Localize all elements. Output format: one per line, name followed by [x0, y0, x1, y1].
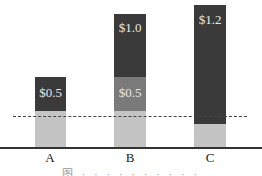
x-label-a: A — [34, 150, 66, 166]
x-axis-baseline — [0, 147, 262, 149]
bar-b-middle-label: $0.5 — [114, 86, 146, 100]
bar-a-top-label: $0.5 — [35, 86, 66, 100]
stacked-bar-chart: $0.5 $0.5 $1.0 $1.2 A B C 图 · · · · · · … — [0, 0, 262, 176]
reference-dashed-line — [13, 116, 247, 117]
bar-b-top-label: $1.0 — [114, 21, 146, 35]
figure-caption: 图 · · · · · · · · · · — [0, 168, 262, 176]
bar-b-middle: $0.5 — [114, 77, 146, 111]
bar-b-top: $1.0 — [114, 14, 146, 77]
x-label-b: B — [114, 150, 146, 166]
bar-c-top-label: $1.2 — [194, 13, 226, 27]
bar-c-base — [194, 124, 226, 147]
x-label-c: C — [194, 150, 226, 166]
bar-a-top: $0.5 — [35, 77, 66, 111]
bar-c-top: $1.2 — [194, 5, 226, 124]
